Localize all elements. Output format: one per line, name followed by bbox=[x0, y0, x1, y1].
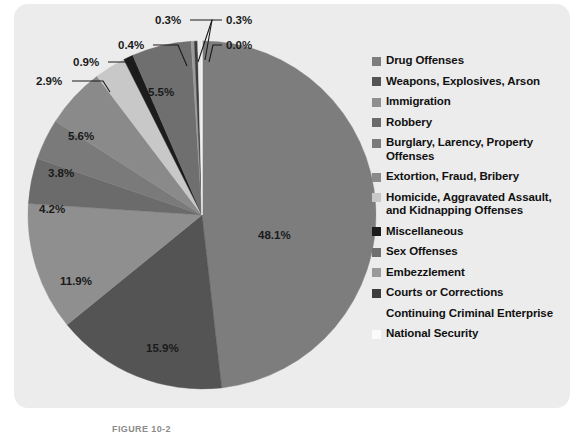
legend-item-label: Burglary, Larency, Property Offenses bbox=[386, 136, 572, 163]
legend-item-label: National Security bbox=[386, 327, 478, 341]
pie-slice-percent-label: 15.9% bbox=[146, 342, 179, 354]
pie-slice-percent-label: 48.1% bbox=[258, 229, 291, 241]
legend-swatch-icon bbox=[372, 309, 381, 318]
pie-slice-percent-label: 0.4% bbox=[118, 39, 144, 51]
legend-item-label: Miscellaneous bbox=[386, 225, 463, 239]
pie-slice-percent-label: 0.3% bbox=[155, 14, 181, 26]
pie-slice-percent-label: 4.2% bbox=[39, 203, 65, 215]
legend-item[interactable]: Drug Offenses bbox=[372, 54, 572, 68]
legend-item-label: Sex Offenses bbox=[386, 245, 458, 259]
legend-swatch-icon bbox=[372, 268, 381, 277]
legend-swatch-icon bbox=[372, 227, 381, 236]
legend-item[interactable]: Continuing Criminal Enterprise bbox=[372, 307, 572, 321]
pie-slice-percent-label: 5.6% bbox=[68, 130, 94, 142]
chart-legend: Drug OffensesWeapons, Explosives, ArsonI… bbox=[372, 54, 572, 348]
pie-slice[interactable] bbox=[202, 41, 376, 388]
legend-swatch-icon bbox=[372, 193, 381, 202]
legend-item[interactable]: National Security bbox=[372, 327, 572, 341]
legend-swatch-icon bbox=[372, 248, 381, 257]
pie-slice-percent-label: 11.9% bbox=[60, 275, 92, 287]
legend-swatch-icon bbox=[372, 330, 381, 339]
legend-item-label: Extortion, Fraud, Bribery bbox=[386, 170, 519, 184]
legend-item-label: Homicide, Aggravated Assault, and Kidnap… bbox=[386, 191, 572, 218]
pie-slice-percent-label: 0.9% bbox=[73, 56, 99, 68]
legend-item[interactable]: Courts or Corrections bbox=[372, 286, 572, 300]
legend-item[interactable]: Burglary, Larency, Property Offenses bbox=[372, 136, 572, 163]
pie-slice-percent-label: 0.3% bbox=[226, 14, 252, 26]
legend-item[interactable]: Embezzlement bbox=[372, 266, 572, 280]
legend-item[interactable]: Immigration bbox=[372, 95, 572, 109]
legend-swatch-icon bbox=[372, 118, 381, 127]
pie-slice-percent-label: 5.5% bbox=[148, 86, 174, 98]
legend-item-label: Weapons, Explosives, Arson bbox=[386, 75, 540, 89]
legend-item-label: Continuing Criminal Enterprise bbox=[386, 307, 553, 321]
legend-item[interactable]: Homicide, Aggravated Assault, and Kidnap… bbox=[372, 191, 572, 218]
legend-item-label: Robbery bbox=[386, 116, 432, 130]
pie-slice-percent-label: 2.9% bbox=[36, 75, 62, 87]
legend-item[interactable]: Robbery bbox=[372, 116, 572, 130]
legend-item-label: Immigration bbox=[386, 95, 451, 109]
legend-item[interactable]: Miscellaneous bbox=[372, 225, 572, 239]
legend-item-label: Drug Offenses bbox=[386, 54, 464, 68]
legend-swatch-icon bbox=[372, 77, 381, 86]
legend-swatch-icon bbox=[372, 289, 381, 298]
pie-slices-group bbox=[28, 41, 376, 389]
legend-swatch-icon bbox=[372, 98, 381, 107]
pie-slice-percent-label: 3.8% bbox=[48, 167, 74, 179]
legend-item[interactable]: Extortion, Fraud, Bribery bbox=[372, 170, 572, 184]
figure-caption: FIGURE 10-2 bbox=[112, 424, 171, 433]
legend-item-label: Courts or Corrections bbox=[386, 286, 503, 300]
pie-chart-figure: 48.1%15.9%11.9%4.2%3.8%5.6%5.5% 2.9%0.9%… bbox=[0, 0, 584, 433]
legend-item[interactable]: Sex Offenses bbox=[372, 245, 572, 259]
legend-item-label: Embezzlement bbox=[386, 266, 465, 280]
legend-swatch-icon bbox=[372, 139, 381, 148]
legend-item[interactable]: Weapons, Explosives, Arson bbox=[372, 75, 572, 89]
pie-slice-percent-label: 0.0% bbox=[226, 39, 252, 51]
legend-swatch-icon bbox=[372, 173, 381, 182]
legend-swatch-icon bbox=[372, 57, 381, 66]
